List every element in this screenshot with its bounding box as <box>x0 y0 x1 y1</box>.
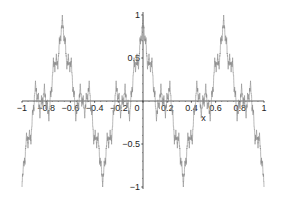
x-axis-label: x <box>201 113 206 123</box>
x-tick-label: −1 <box>17 103 27 113</box>
chart: −1−0.8−0.6−0.4−0.200.20.40.60.8110.5−0.5… <box>0 0 281 200</box>
x-tick-label: −0.4 <box>86 103 104 113</box>
y-tick-label: 1 <box>135 10 140 20</box>
x-tick-label: 0.4 <box>185 103 198 113</box>
axes <box>22 12 264 189</box>
x-tick-label: −0.2 <box>110 103 128 113</box>
x-tick-label: 0 <box>134 103 139 113</box>
y-tick-label: −1 <box>130 182 140 192</box>
y-tick-label: −0.5 <box>122 139 140 149</box>
x-tick-label: 1 <box>261 103 266 113</box>
